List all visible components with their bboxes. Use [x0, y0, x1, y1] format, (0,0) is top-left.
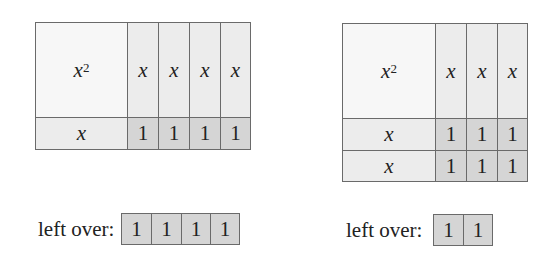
x-tile: x — [220, 22, 251, 118]
leftover-unit-tile: 1 — [181, 213, 211, 245]
x-tile: x — [189, 22, 221, 118]
leftover-label: left over: — [346, 214, 422, 246]
tile-label: x — [381, 59, 390, 84]
x-tile: x — [127, 22, 159, 118]
unit-tile: 1 — [497, 118, 528, 151]
x-squared-tile: x2 — [342, 23, 436, 119]
exponent: 2 — [83, 60, 90, 76]
unit-tile: 1 — [158, 117, 190, 150]
leftover-label: left over: — [38, 213, 114, 245]
unit-tile: 1 — [127, 117, 159, 150]
x-tile: x — [497, 23, 528, 119]
leftover-unit-tile: 1 — [210, 213, 240, 245]
exponent: 2 — [390, 61, 397, 77]
leftover-unit-tile: 1 — [121, 213, 152, 245]
unit-tile: 1 — [189, 117, 221, 150]
unit-tile: 1 — [466, 118, 498, 151]
unit-tile: 1 — [497, 150, 528, 182]
x-tile: x — [466, 23, 498, 119]
x-tile: x — [158, 22, 190, 118]
unit-tile: 1 — [435, 150, 467, 182]
x-tile: x — [342, 150, 436, 182]
unit-tile: 1 — [220, 117, 251, 150]
x-squared-tile: x2 — [35, 22, 128, 118]
leftover-unit-tile: 1 — [463, 214, 493, 246]
leftover-unit-tile: 1 — [151, 213, 182, 245]
x-tile: x — [342, 118, 436, 151]
x-tile: x — [435, 23, 467, 119]
unit-tile: 1 — [466, 150, 498, 182]
x-tile: x — [35, 117, 128, 150]
leftover-unit-tile: 1 — [433, 214, 464, 246]
unit-tile: 1 — [435, 118, 467, 151]
tile-label: x — [74, 58, 83, 83]
